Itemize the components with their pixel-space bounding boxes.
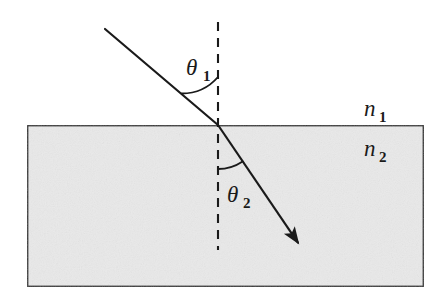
theta1-subscript: 1	[203, 68, 211, 84]
theta1-symbol: θ	[186, 55, 197, 80]
n2-subscript: 2	[379, 149, 387, 165]
refraction-svg-canvas: θ 1 θ 2 n 1 n 2	[0, 0, 447, 303]
theta2-subscript: 2	[243, 195, 251, 211]
theta2-symbol: θ	[227, 182, 238, 207]
n2-symbol: n	[364, 136, 376, 161]
n1-subscript: 1	[379, 109, 387, 125]
refraction-diagram: θ 1 θ 2 n 1 n 2	[0, 0, 447, 303]
n1-symbol: n	[364, 96, 376, 121]
